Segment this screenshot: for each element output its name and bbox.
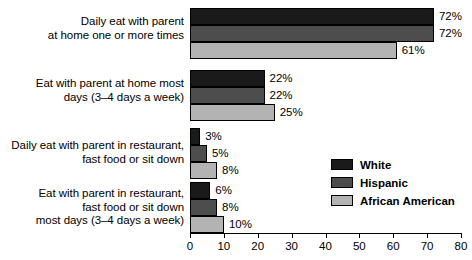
bar-hispanic-0: [190, 25, 434, 42]
x-axis-tick-label-20: 20: [243, 240, 273, 253]
legend-label-african-american: African American: [360, 195, 455, 207]
legend: White Hispanic African American: [331, 157, 455, 211]
x-axis-tick-label-10: 10: [209, 240, 239, 253]
legend-label-white: White: [360, 159, 391, 171]
x-axis-tick-10: [224, 233, 225, 238]
bar-african-american-3: [190, 216, 224, 233]
x-axis-tick-label-70: 70: [412, 240, 442, 253]
x-axis-tick-20: [258, 233, 259, 238]
x-axis-tick-70: [427, 233, 428, 238]
x-axis-tick-30: [292, 233, 293, 238]
bar-white-1: [190, 70, 265, 87]
bar-value-african-american-2: 8%: [222, 162, 239, 179]
x-axis-tick-40: [326, 233, 327, 238]
bar-value-white-2: 3%: [205, 128, 222, 145]
x-axis-tick-label-80: 80: [446, 240, 472, 253]
legend-item-white: White: [331, 157, 455, 172]
bar-white-0: [190, 8, 434, 25]
legend-swatch-hispanic-icon: [331, 177, 353, 188]
category-label-1: Eat with parent at home most days (3–4 d…: [36, 77, 184, 104]
bar-value-hispanic-3: 8%: [222, 199, 239, 216]
x-axis-tick-label-30: 30: [277, 240, 307, 253]
x-axis-tick-label-0: 0: [175, 240, 205, 253]
bar-african-american-2: [190, 162, 217, 179]
bar-value-white-0: 72%: [439, 8, 462, 25]
category-label-3: Eat with parent in restaurant, fast food…: [36, 187, 184, 228]
legend-item-african-american: African American: [331, 193, 455, 208]
x-axis-tick-60: [393, 233, 394, 238]
bar-hispanic-3: [190, 199, 217, 216]
x-axis-tick-50: [359, 233, 360, 238]
bar-white-2: [190, 128, 200, 145]
bar-value-hispanic-1: 22%: [270, 87, 293, 104]
bar-hispanic-2: [190, 145, 207, 162]
x-axis-tick-0: [190, 233, 191, 238]
category-label-0: Daily eat with parent at home one or mor…: [48, 15, 184, 42]
bar-value-hispanic-2: 5%: [212, 145, 229, 162]
x-axis-tick-label-60: 60: [378, 240, 408, 253]
x-axis-tick-label-40: 40: [311, 240, 341, 253]
bar-value-white-1: 22%: [270, 70, 293, 87]
legend-label-hispanic: Hispanic: [360, 177, 408, 189]
legend-item-hispanic: Hispanic: [331, 175, 455, 190]
bar-value-african-american-3: 10%: [229, 216, 252, 233]
bar-value-african-american-1: 25%: [280, 104, 303, 121]
bar-white-3: [190, 182, 210, 199]
legend-swatch-white-icon: [331, 159, 353, 170]
category-label-2: Daily eat with parent in restaurant, fas…: [11, 139, 184, 166]
x-axis-tick-80: [461, 233, 462, 238]
bar-hispanic-1: [190, 87, 265, 104]
bar-value-african-american-0: 61%: [402, 42, 425, 59]
x-axis-tick-label-50: 50: [344, 240, 374, 253]
bar-african-american-0: [190, 42, 397, 59]
bar-value-white-3: 6%: [215, 182, 232, 199]
bar-value-hispanic-0: 72%: [439, 25, 462, 42]
bar-african-american-1: [190, 104, 275, 121]
legend-swatch-african-american-icon: [331, 195, 353, 206]
